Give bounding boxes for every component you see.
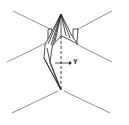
middle-crease-lines [7,43,112,62]
axis-label: Y [73,58,78,65]
lower-crease-lines [12,91,110,113]
arrow-icon [55,61,72,65]
fold-diagram: Y [0,0,129,125]
